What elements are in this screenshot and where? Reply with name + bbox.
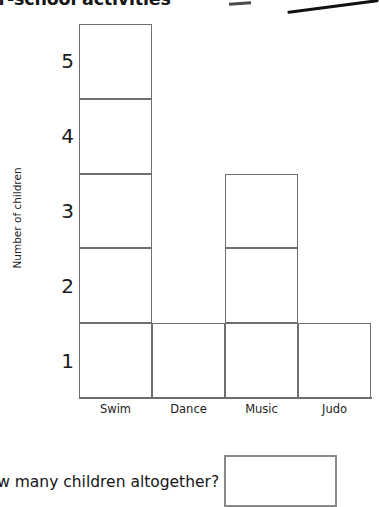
x-tick-label-music: Music [225,402,298,416]
x-axis-ticks: SwimDanceMusicJudo [79,402,372,426]
bar-swim [79,24,152,398]
bar-unit-cell [225,323,298,398]
x-axis-line [79,397,372,399]
bar-unit-cell [298,323,371,398]
x-tick-label-dance: Dance [152,402,225,416]
y-axis-ticks: 54321 [30,24,74,398]
y-axis-title: Number of children [11,138,23,298]
bar-chart: Number of children 54321 SwimDanceMusicJ… [0,0,379,430]
y-tick-label: 5 [52,51,74,71]
bar-unit-cell [79,24,152,99]
question-text: How many children altogether? [0,473,219,491]
bar-unit-cell [79,99,152,174]
bar-judo [298,323,371,398]
x-tick-label-judo: Judo [298,402,371,416]
bar-unit-cell [152,323,225,398]
bar-unit-cell [79,323,152,398]
bar-unit-cell [225,248,298,323]
bar-unit-cell [79,174,152,249]
x-tick-label-swim: Swim [79,402,152,416]
bar-unit-cell [79,248,152,323]
y-tick-label: 1 [52,351,74,371]
answer-box[interactable] [224,455,337,507]
bar-unit-cell [225,174,298,249]
y-tick-label: 2 [52,276,74,296]
bar-music [225,174,298,398]
y-tick-label: 4 [52,126,74,146]
y-tick-label: 3 [52,201,74,221]
plot-area [79,24,371,398]
bar-dance [152,323,225,398]
